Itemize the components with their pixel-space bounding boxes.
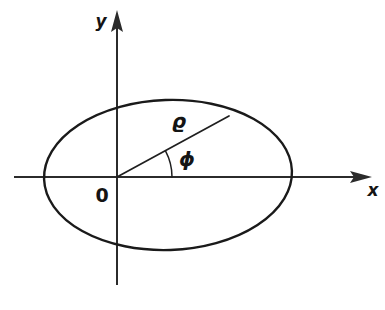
- origin-label: 0: [95, 184, 108, 206]
- x-axis-label: x: [367, 180, 380, 200]
- figure-canvas: y x 0 ϱ ϕ: [0, 0, 385, 310]
- radius-label-rho: ϱ: [172, 109, 187, 133]
- angle-label-phi: ϕ: [179, 147, 195, 171]
- y-axis-label: y: [95, 11, 107, 31]
- ellipse-polar-coordinate-diagram: y x 0 ϱ ϕ: [0, 0, 385, 310]
